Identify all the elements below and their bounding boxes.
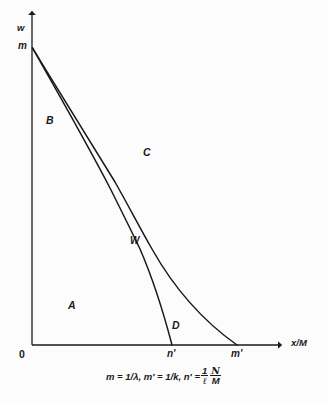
point-label-m-prime: m' bbox=[231, 349, 242, 359]
point-label-n-prime: n' bbox=[167, 349, 176, 359]
point-label-w: W bbox=[130, 236, 139, 246]
region-label-b: B bbox=[46, 115, 54, 126]
region-label-d: D bbox=[172, 320, 180, 331]
x-axis-label: x/M bbox=[291, 338, 307, 348]
region-label-a: A bbox=[68, 300, 76, 311]
plot-area bbox=[0, 0, 328, 403]
origin-label: 0 bbox=[19, 349, 25, 360]
caption-part-n-prime: n′ = bbox=[184, 372, 200, 382]
curve-straight-to-n-prime bbox=[33, 48, 173, 345]
fraction-denominator-m: M bbox=[210, 376, 221, 386]
figure-container: w x/M 0 m W n' m' A B C D m = 1/λ, m′ = … bbox=[0, 0, 328, 403]
caption-part-m: m = 1/λ, bbox=[106, 372, 141, 382]
caption-fraction-n-over-m: ΝM bbox=[210, 366, 221, 387]
point-label-m: m bbox=[18, 41, 27, 51]
caption-fraction-one-over-l: 1ℓ bbox=[201, 366, 208, 387]
y-axis-label: w bbox=[17, 23, 24, 33]
fraction-denominator-l: ℓ bbox=[201, 376, 208, 386]
figure-caption: m = 1/λ, m′ = 1/k, n′ =1ℓΝM bbox=[0, 366, 328, 387]
region-label-c: C bbox=[143, 147, 151, 158]
curve-convex-to-m-prime bbox=[33, 48, 238, 345]
caption-part-m-prime: m′ = 1/k, bbox=[144, 372, 181, 382]
